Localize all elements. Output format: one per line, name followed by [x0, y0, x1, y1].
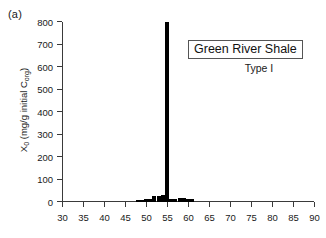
x-tick-55: 55 [167, 202, 168, 207]
y-axis-line [62, 22, 63, 202]
x-tick-label-55: 55 [162, 212, 173, 223]
x-tick-30: 30 [62, 202, 63, 207]
y-tick-label-400: 400 [37, 106, 53, 117]
y-axis-title-text: X0 (mg/g initial Corg) [18, 68, 31, 152]
x-tick-label-80: 80 [267, 212, 278, 223]
x-tick-80: 80 [272, 202, 273, 207]
y-tick-400: 400 [57, 111, 62, 112]
y-axis-title: X0 (mg/g initial Corg) [16, 20, 32, 200]
y-tick-200: 200 [57, 156, 62, 157]
x-tick-65: 65 [209, 202, 210, 207]
x-tick-90: 90 [314, 202, 315, 207]
x-tick-label-65: 65 [204, 212, 215, 223]
x-tick-70: 70 [230, 202, 231, 207]
y-tick-label-100: 100 [37, 174, 53, 185]
x-tick-label-60: 60 [183, 212, 194, 223]
x-tick-45: 45 [125, 202, 126, 207]
x-tick-label-30: 30 [57, 212, 68, 223]
y-tick-label-600: 600 [37, 61, 53, 72]
y-tick-700: 700 [57, 44, 62, 45]
y-tick-100: 100 [57, 179, 62, 180]
x-tick-label-70: 70 [225, 212, 236, 223]
x-tick-label-45: 45 [120, 212, 131, 223]
x-tick-label-35: 35 [78, 212, 89, 223]
x-tick-85: 85 [293, 202, 294, 207]
bar [190, 199, 194, 202]
y-axis-title-paren: ) [18, 68, 29, 71]
y-tick-300: 300 [57, 134, 62, 135]
x-tick-label-85: 85 [288, 212, 299, 223]
y-tick-label-0: 0 [48, 196, 53, 207]
x-tick-label-40: 40 [99, 212, 110, 223]
y-tick-label-800: 800 [37, 16, 53, 27]
y-tick-label-700: 700 [37, 39, 53, 50]
y-axis-title-symbol: X [18, 146, 29, 152]
bar [165, 22, 169, 202]
y-tick-label-300: 300 [37, 129, 53, 140]
x-tick-label-50: 50 [141, 212, 152, 223]
x-tick-35: 35 [83, 202, 84, 207]
x-tick-60: 60 [188, 202, 189, 207]
y-tick-800: 800 [57, 21, 62, 22]
y-axis-title-units: (mg/g initial C [18, 81, 29, 142]
figure-panel-a: (a) X0 (mg/g initial Corg) 0100200300400… [0, 0, 326, 238]
x-tick-label-90: 90 [309, 212, 320, 223]
y-tick-label-500: 500 [37, 84, 53, 95]
y-tick-label-200: 200 [37, 151, 53, 162]
x-tick-75: 75 [251, 202, 252, 207]
x-tick-40: 40 [104, 202, 105, 207]
y-tick-600: 600 [57, 66, 62, 67]
x-tick-label-75: 75 [246, 212, 257, 223]
kerogen-type-label: Type I [206, 62, 312, 74]
y-axis-title-subscript-zero: 0 [23, 142, 30, 146]
x-tick-50: 50 [146, 202, 147, 207]
y-axis-title-subscript-org: org [23, 71, 30, 81]
y-tick-500: 500 [57, 89, 62, 90]
panel-label: (a) [8, 8, 22, 20]
sample-title-box: Green River Shale [188, 40, 303, 59]
